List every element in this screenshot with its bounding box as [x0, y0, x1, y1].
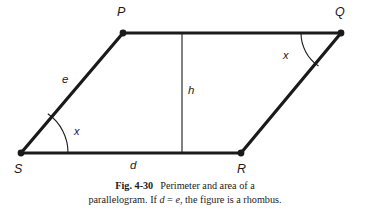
- caption-equals: =: [165, 194, 176, 205]
- figure-container: P Q R S e d h x x Fig. 4-30Perimeter and…: [0, 0, 370, 216]
- vertex-dot-r: [238, 150, 245, 157]
- vertex-dot-q: [338, 30, 345, 37]
- side-label-e: e: [62, 74, 68, 86]
- angle-label-x-at-q: x: [283, 50, 289, 61]
- caption-line-1: Fig. 4-30Perimeter and area of a: [0, 179, 370, 193]
- caption-line-2-suffix: , the figure is a rhombus.: [180, 194, 282, 205]
- caption-line-1-text: Perimeter and area of a: [160, 180, 254, 191]
- vertex-label-r: R: [237, 163, 246, 176]
- figure-caption: Fig. 4-30Perimeter and area of a paralle…: [0, 179, 370, 207]
- vertex-dot-p: [120, 30, 127, 37]
- caption-line-2: parallelogram. If d = e, the figure is a…: [0, 193, 370, 207]
- side-sp: [21, 33, 123, 153]
- vertex-dot-s: [18, 150, 25, 157]
- height-label-h: h: [188, 85, 194, 97]
- side-label-d: d: [130, 160, 136, 172]
- vertex-label-s: S: [14, 163, 22, 176]
- side-qr: [241, 33, 341, 153]
- angle-label-x-at-s: x: [74, 126, 80, 137]
- caption-figure-number: Fig. 4-30: [115, 180, 153, 191]
- vertex-label-p: P: [117, 6, 125, 19]
- vertex-label-q: Q: [335, 6, 345, 19]
- caption-line-2-prefix: parallelogram. If: [88, 194, 159, 205]
